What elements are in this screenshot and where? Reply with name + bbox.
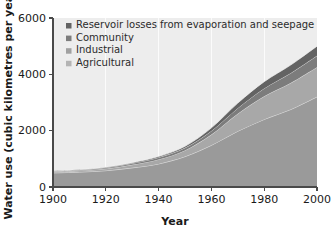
x-tick-label-1980: 1980 — [250, 193, 278, 206]
legend-swatch-3 — [66, 61, 72, 67]
legend-swatch-0 — [66, 23, 72, 29]
y-tick-label-6000: 6000 — [18, 12, 46, 25]
x-tick-label-1920: 1920 — [92, 193, 120, 206]
x-tick-label-1940: 1940 — [145, 193, 173, 206]
water-use-stacked-area-chart: 0200040006000 190019201940196019802000 Y… — [0, 0, 333, 231]
y-tick-label-0: 0 — [39, 181, 46, 194]
x-axis-title: Year — [160, 215, 189, 228]
x-tick-label-2000: 2000 — [303, 193, 331, 206]
legend-label-2: Industrial — [76, 44, 123, 55]
y-axis-title: Water use (cubic kilometres per year) — [2, 0, 15, 220]
legend-swatch-1 — [66, 36, 72, 42]
x-tick-label-1960: 1960 — [197, 193, 225, 206]
chart-figure: 0200040006000 190019201940196019802000 Y… — [0, 0, 333, 231]
y-tick-label-2000: 2000 — [18, 124, 46, 137]
legend-label-3: Agricultural — [76, 57, 134, 68]
legend-label-0: Reservoir losses from evaporation and se… — [76, 19, 314, 30]
y-tick-label-4000: 4000 — [18, 68, 46, 81]
x-tick-label-1900: 1900 — [39, 193, 67, 206]
legend-swatch-2 — [66, 48, 72, 54]
legend-label-1: Community — [76, 32, 134, 43]
